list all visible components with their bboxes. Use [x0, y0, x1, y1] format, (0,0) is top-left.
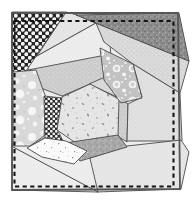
quilt-illustration [0, 0, 192, 201]
crazy-quilt-block-drawing [0, 0, 192, 201]
patch-layer [12, 12, 189, 192]
